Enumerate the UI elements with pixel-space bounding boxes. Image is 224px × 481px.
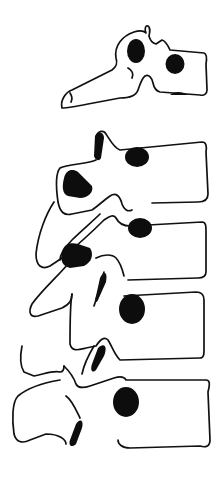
spine-diagram: [0, 0, 224, 481]
vertebra-5: [13, 345, 210, 448]
vertebra-1: [62, 26, 207, 108]
vertebra-2: [56, 131, 208, 214]
vertebra-3: [36, 202, 206, 280]
